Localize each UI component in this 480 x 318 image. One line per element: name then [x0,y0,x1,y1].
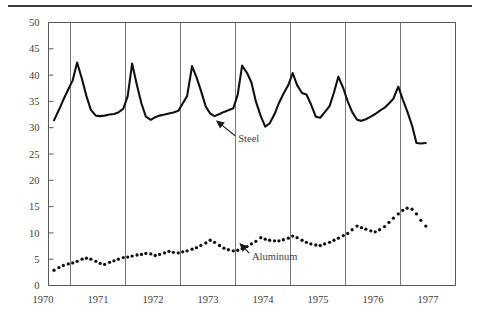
aluminum-data-point [103,263,106,266]
aluminum-data-point [374,230,377,233]
aluminum-data-point [85,257,88,260]
aluminum-data-point [227,248,230,251]
aluminum-data-point [287,237,290,240]
aluminum-data-point [405,207,408,210]
aluminum-data-point [332,239,335,242]
aluminum-data-point [378,228,381,231]
x-tick-label-1972: 1972 [143,294,164,305]
annotation-label-aluminum: Aluminum [252,251,298,262]
aluminum-data-point [309,242,312,245]
aluminum-data-point [323,242,326,245]
x-axis-tick-labels: 19701971197219731974197519761977 [33,294,439,305]
aluminum-data-point [268,239,271,242]
x-tick-label-1974: 1974 [253,294,275,305]
aluminum-data-point [209,239,212,242]
aluminum-data-point [401,209,404,212]
aluminum-data-point [144,252,147,255]
aluminum-data-point [355,224,358,227]
aluminum-data-point [163,251,166,254]
aluminum-data-point [94,260,97,263]
steel-series-line [54,62,426,143]
y-tick-label-40: 40 [29,70,40,81]
aluminum-data-point [350,228,353,231]
aluminum-data-point [75,260,78,263]
aluminum-data-point [130,254,133,257]
annotation-arrowhead-steel [217,121,224,127]
aluminum-data-point [112,259,115,262]
y-tick-label-20: 20 [29,175,40,186]
aluminum-data-point [346,232,349,235]
x-tick-label-1976: 1976 [363,294,384,305]
y-tick-label-45: 45 [29,43,40,54]
aluminum-data-point [57,266,60,269]
aluminum-series-dots [52,207,427,272]
aluminum-data-point [52,269,55,272]
x-tick-label-1977: 1977 [418,294,439,305]
aluminum-data-point [264,238,267,241]
aluminum-data-point [236,249,239,252]
header-rule [8,5,472,7]
steel-aluminum-line-chart: 05101520253035404550 1970197119721973197… [0,0,480,318]
aluminum-data-point [140,253,143,256]
aluminum-data-point [273,239,276,242]
annotation-label-steel: Steel [238,133,259,144]
aluminum-data-point [254,240,257,243]
aluminum-data-point [158,253,161,256]
aluminum-data-point [392,217,395,220]
aluminum-data-point [419,219,422,222]
aluminum-data-point [387,221,390,224]
aluminum-data-point [204,241,207,244]
aluminum-data-point [218,244,221,247]
aluminum-data-point [181,250,184,253]
aluminum-data-point [190,248,193,251]
aluminum-data-point [89,258,92,261]
aluminum-data-point [199,244,202,247]
aluminum-data-point [291,234,294,237]
x-tick-label-1971: 1971 [88,294,109,305]
aluminum-data-point [410,208,413,211]
aluminum-data-point [135,253,138,256]
aluminum-data-point [383,225,386,228]
aluminum-data-point [314,243,317,246]
aluminum-data-point [364,228,367,231]
aluminum-data-point [424,224,427,227]
aluminum-data-point [213,241,216,244]
aluminum-data-point [67,262,70,265]
aluminum-data-point [154,254,157,257]
aluminum-data-point [122,256,125,259]
x-tick-label-1973: 1973 [198,294,219,305]
aluminum-data-point [195,246,198,249]
aluminum-data-point [360,226,363,229]
aluminum-data-point [232,249,235,252]
aluminum-data-point [250,242,253,245]
x-tick-label-1970: 1970 [33,294,54,305]
aluminum-data-point [108,261,111,264]
aluminum-data-point [172,251,175,254]
chart-figure: 05101520253035404550 1970197119721973197… [0,0,480,318]
aluminum-data-point [328,241,331,244]
aluminum-data-point [99,262,102,265]
aluminum-data-point [259,236,262,239]
aluminum-data-point [305,241,308,244]
y-axis-tick-labels: 05101520253035404550 [29,17,40,291]
y-tick-label-10: 10 [29,228,40,239]
aluminum-data-point [117,258,120,261]
aluminum-data-point [282,238,285,241]
aluminum-data-point [342,234,345,237]
y-tick-label-15: 15 [29,201,40,212]
aluminum-data-point [80,258,83,261]
y-tick-label-5: 5 [34,254,39,265]
y-axis-tick-marks [49,23,54,286]
y-tick-label-25: 25 [29,149,40,160]
aluminum-data-point [369,229,372,232]
aluminum-data-point [295,236,298,239]
y-tick-label-0: 0 [34,280,39,291]
aluminum-data-point [62,264,65,267]
aluminum-data-point [300,239,303,242]
aluminum-data-point [337,237,340,240]
aluminum-data-point [277,239,280,242]
aluminum-data-point [149,252,152,255]
y-tick-label-50: 50 [29,17,40,28]
aluminum-data-point [222,247,225,250]
aluminum-data-point [415,212,418,215]
